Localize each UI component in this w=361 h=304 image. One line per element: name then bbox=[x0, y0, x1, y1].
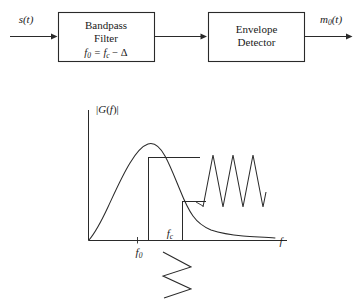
f0-label-sub: 0 bbox=[139, 251, 143, 260]
output-signal-base: m bbox=[320, 13, 328, 25]
bandpass-filter-label-line1: Bandpass bbox=[85, 19, 127, 31]
formula-tail: − Δ bbox=[110, 47, 128, 58]
bandpass-filter-block: Bandpass Filter f0 = fc − Δ bbox=[59, 13, 155, 62]
technical-figure: Bandpass Filter f0 = fc − Δ Envelope Det… bbox=[0, 0, 361, 304]
interblock-arrow bbox=[155, 34, 208, 40]
output-signal-label: m0(t) bbox=[320, 13, 342, 27]
ylabel-g: G bbox=[98, 103, 106, 115]
output-zigzag-waveform bbox=[203, 155, 266, 207]
fc-tick-label: fc bbox=[167, 227, 174, 241]
zigzag-pointer bbox=[196, 202, 203, 206]
fc-label-sub: c bbox=[170, 232, 174, 241]
output-signal-tail: (t) bbox=[332, 13, 343, 26]
bandpass-filter-label-line2: Filter bbox=[94, 32, 118, 44]
input-zigzag-waveform bbox=[163, 252, 191, 298]
ylabel-bar-right: | bbox=[117, 103, 119, 115]
input-signal-label: s(t) bbox=[19, 13, 34, 26]
envelope-detector-block: Envelope Detector bbox=[209, 13, 305, 62]
output-arrow bbox=[305, 34, 353, 40]
envelope-detector-label-line1: Envelope bbox=[236, 23, 278, 35]
figure-root: Bandpass Filter f0 = fc − Δ Envelope Det… bbox=[0, 0, 361, 304]
plot-y-axis-label: |G(f)| bbox=[96, 103, 119, 116]
input-arrow bbox=[10, 34, 58, 40]
envelope-detector-label-line2: Detector bbox=[238, 36, 276, 48]
bandpass-filter-formula: f0 = fc − Δ bbox=[84, 47, 128, 60]
f0-tick-label: f0 bbox=[136, 246, 143, 260]
